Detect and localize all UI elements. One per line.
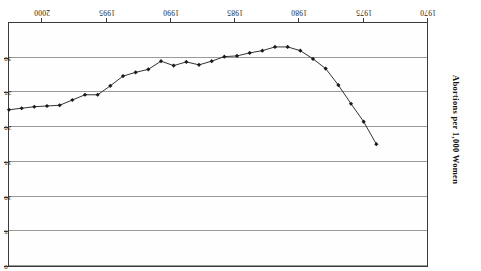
data-point (235, 54, 239, 58)
data-series-abortion-rate (9, 23, 427, 266)
data-point (20, 106, 24, 110)
data-point (222, 55, 226, 59)
data-point (70, 98, 74, 102)
xtick-label-1990: 1990 (154, 8, 188, 17)
series-line (9, 47, 376, 144)
data-point (286, 45, 290, 49)
data-point (210, 59, 214, 63)
data-point (248, 51, 252, 55)
xtick-mark-1975 (363, 18, 364, 22)
data-point (32, 105, 36, 109)
xtick-mark-1985 (234, 18, 235, 22)
data-point (134, 70, 138, 74)
xtick-mark-1990 (170, 18, 171, 22)
data-point (83, 93, 87, 97)
plot-area (8, 22, 428, 267)
data-point (172, 64, 176, 68)
ytick-label-20: 20 (4, 124, 26, 132)
xtick-mark-1995 (106, 18, 107, 22)
xtick-label-1985: 1985 (218, 8, 252, 17)
data-point (374, 142, 378, 146)
ytick-label-15: 15 (4, 159, 26, 167)
ytick-label-5: 5 (4, 228, 26, 236)
y-axis-title: Abortions per 1,000 Women (451, 75, 461, 184)
ytick-label-0: 0 (4, 263, 26, 271)
data-point (7, 108, 11, 112)
xtick-label-1995: 1995 (90, 8, 124, 17)
data-point (197, 63, 201, 67)
series-markers (7, 45, 379, 146)
ytick-label-10: 10 (4, 194, 26, 202)
xtick-label-1970: 1970 (411, 8, 445, 17)
ytick-label-30: 30 (4, 55, 26, 63)
xtick-mark-1970 (427, 18, 428, 22)
data-point (45, 104, 49, 108)
xtick-label-2000: 2000 (25, 8, 59, 17)
xtick-mark-1980 (298, 18, 299, 22)
data-point (184, 60, 188, 64)
xtick-mark-2000 (41, 18, 42, 22)
data-point (58, 103, 62, 107)
ytick-label-25: 25 (4, 90, 26, 98)
data-point (260, 49, 264, 53)
xtick-label-1975: 1975 (347, 8, 381, 17)
data-point (273, 45, 277, 49)
xtick-label-1980: 1980 (282, 8, 316, 17)
